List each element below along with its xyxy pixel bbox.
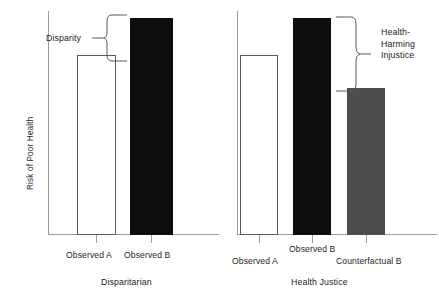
bar-label-health-justice-counterfactual-b: Counterfactual B xyxy=(336,256,402,266)
panel-title-health-justice: Health Justice xyxy=(291,277,348,287)
bar-health-justice-observed-a xyxy=(240,55,278,235)
tick-disparitarian-observed-b xyxy=(151,235,152,243)
chart-figure: Risk of Poor Health Observed A Observed … xyxy=(0,0,439,300)
bar-label-health-justice-observed-a: Observed A xyxy=(232,256,278,266)
annotation-disparity: Disparity xyxy=(46,33,81,45)
right-panel-y-axis xyxy=(237,11,238,235)
tick-health-justice-counterfactual-b xyxy=(366,235,367,243)
bar-label-health-justice-observed-b: Observed B xyxy=(289,244,335,254)
annotation-injustice-line-1: Health- xyxy=(381,27,415,39)
y-axis-label: Risk of Poor Health xyxy=(26,117,35,190)
bar-disparitarian-observed-a xyxy=(77,55,116,235)
tick-health-justice-observed-b xyxy=(312,235,313,243)
tick-disparitarian-observed-a xyxy=(96,235,97,243)
annotation-health-harming-injustice: Health- Harming Injustice xyxy=(381,27,415,62)
bar-health-justice-observed-b xyxy=(293,18,331,235)
health-harming-injustice-brace xyxy=(335,16,361,92)
annotation-injustice-line-2: Harming xyxy=(381,39,415,51)
bar-health-justice-counterfactual-b xyxy=(347,88,385,235)
left-panel-y-axis xyxy=(48,11,49,235)
bar-label-disparitarian-observed-b: Observed B xyxy=(124,250,170,260)
bar-label-disparitarian-observed-a: Observed A xyxy=(66,250,112,260)
tick-health-justice-observed-a xyxy=(259,235,260,243)
bar-disparitarian-observed-b xyxy=(130,18,173,235)
disparity-brace xyxy=(103,14,129,62)
panel-title-disparitarian: Disparitarian xyxy=(101,277,152,287)
annotation-injustice-line-3: Injustice xyxy=(381,50,415,62)
